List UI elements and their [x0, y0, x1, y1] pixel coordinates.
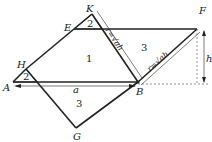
dimension-a-label: a — [73, 84, 79, 95]
dimension-r-left-label: r=√ah — [103, 26, 125, 52]
point-B-dot — [136, 80, 139, 83]
arrow-h-up-icon — [202, 30, 206, 36]
geometry-diagram: K E F H A B G 1 2 2 3 3 a h r=√ah r=√ah — [0, 0, 212, 142]
region-2-left-label: 2 — [23, 71, 29, 82]
label-F: F — [198, 5, 207, 16]
label-K: K — [85, 3, 94, 14]
region-3-bottom-label: 3 — [76, 98, 82, 109]
label-G: G — [73, 131, 81, 142]
region-3-right-label: 3 — [141, 42, 147, 53]
dimension-h-label: h — [206, 53, 212, 64]
arrow-a-left-icon — [14, 84, 21, 88]
arrow-h-down-icon — [202, 77, 206, 83]
dimension-r-right-line — [141, 32, 200, 85]
label-B: B — [135, 86, 143, 97]
region-1-label: 1 — [86, 53, 92, 64]
region-2-top-label: 2 — [87, 18, 93, 29]
label-H: H — [16, 59, 26, 70]
line-G-B — [76, 82, 138, 128]
label-E: E — [63, 22, 72, 33]
label-A: A — [2, 82, 10, 93]
